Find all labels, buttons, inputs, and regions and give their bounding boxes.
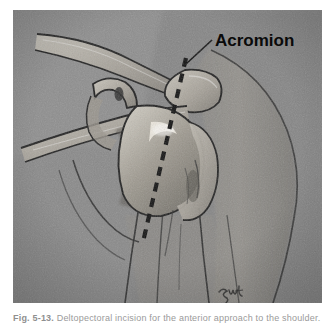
label-acromion: Acromion	[215, 31, 294, 50]
anatomy-illustration-svg: Acromion	[13, 10, 322, 303]
vignette-overlay	[13, 10, 322, 303]
figure-caption-label: Fig. 5-13.	[13, 313, 54, 323]
page-root: Acromion Fig. 5-13. Deltopectoral incisi…	[0, 0, 334, 326]
figure-illustration-plate: Acromion	[13, 10, 322, 303]
figure-caption-text: Deltopectoral incision for the anterior …	[57, 313, 321, 323]
figure-caption: Fig. 5-13. Deltopectoral incision for th…	[13, 313, 323, 324]
